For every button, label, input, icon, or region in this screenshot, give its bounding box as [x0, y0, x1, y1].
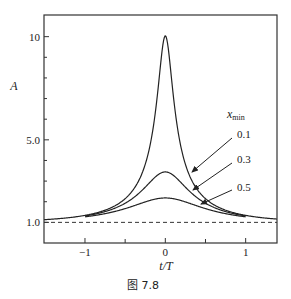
arrow-0.5	[201, 190, 232, 204]
x-tick-label: −1	[79, 246, 91, 258]
ticks-group: −1011.05.010	[26, 31, 248, 258]
figure-caption: 图 7.8	[127, 279, 159, 292]
legend-arrows	[192, 138, 232, 204]
arrow-0.3	[193, 163, 232, 190]
legend-label-0.3: 0.3	[237, 153, 251, 165]
y-tick-label: 10	[29, 31, 41, 43]
legend-label-0.5: 0.5	[237, 181, 251, 193]
x-tick-label: 1	[243, 246, 249, 258]
curve-xmin-0.3	[85, 172, 246, 216]
legend-label-0.1: 0.1	[237, 128, 251, 140]
curve-xmin-0.5	[85, 198, 246, 217]
chart: −1011.05.010 A t/T xmin 0.1 0.3 0.5 图 7.…	[0, 0, 291, 299]
y-axis-label: A	[9, 79, 18, 93]
legend-title-subscript: min	[232, 113, 244, 122]
y-tick-label: 5.0	[26, 134, 40, 146]
y-tick-label: 1.0	[26, 216, 40, 228]
x-axis-label: t/T	[159, 259, 174, 273]
x-tick-label: 0	[163, 246, 169, 258]
legend-title: xmin	[226, 107, 245, 122]
